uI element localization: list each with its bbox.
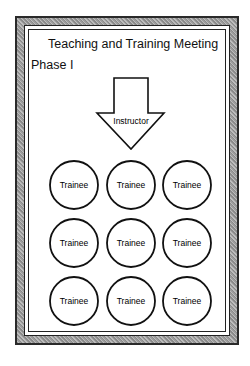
trainee-node: Trainee (50, 161, 98, 209)
instructor-arrow: Instructor (97, 78, 164, 149)
trainee-label: Trainee (60, 180, 89, 190)
trainee-node: Trainee (107, 219, 155, 267)
trainee-node: Trainee (107, 277, 155, 325)
trainee-label: Trainee (117, 296, 146, 306)
trainee-node: Trainee (50, 219, 98, 267)
trainee-node: Trainee (163, 161, 211, 209)
trainee-node: Trainee (107, 161, 155, 209)
trainee-node: Trainee (163, 219, 211, 267)
trainee-label: Trainee (173, 180, 202, 190)
trainee-grid: TraineeTraineeTraineeTraineeTraineeTrain… (50, 161, 211, 325)
trainee-node: Trainee (50, 277, 98, 325)
trainee-label: Trainee (60, 238, 89, 248)
instructor-label: Instructor (113, 116, 149, 126)
trainee-node: Trainee (163, 277, 211, 325)
down-arrow-icon (97, 78, 164, 149)
trainee-label: Trainee (173, 296, 202, 306)
trainee-label: Trainee (117, 238, 146, 248)
trainee-label: Trainee (60, 296, 89, 306)
trainee-label: Trainee (173, 238, 202, 248)
diagram-canvas: Instructor TraineeTraineeTraineeTraineeT… (0, 0, 250, 366)
trainee-label: Trainee (117, 180, 146, 190)
